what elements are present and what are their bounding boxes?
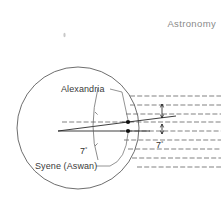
alexandria-label: Alexandria [61,84,105,94]
radius-lines-group [58,116,176,131]
syene-label: Syene (Aswan) [35,161,97,171]
astronomy-figure: Astronomy Alexandria Syene (Aswan) 7° 7° [0,0,222,206]
exterior-angle-dimension [160,104,163,134]
syene-leader-line [96,133,128,166]
exterior-angle-label: 7° [156,140,164,150]
scan-speck [63,33,65,37]
alexandria-point [126,120,130,124]
interior-angle-label: 7° [80,146,88,156]
page-title: Astronomy [167,18,216,29]
syene-point [126,129,130,133]
arc-tick-lower [95,143,98,146]
alexandria-leader-line [110,89,128,120]
sun-ray-through-alexandria [128,116,176,122]
exterior-angle-unit: ° [161,140,164,146]
eratosthenes-diagram: Astronomy Alexandria Syene (Aswan) 7° 7° [0,0,222,206]
interior-angle-unit: ° [85,146,88,152]
interior-angle-arc [93,88,98,160]
arc-tick-upper [95,112,98,115]
